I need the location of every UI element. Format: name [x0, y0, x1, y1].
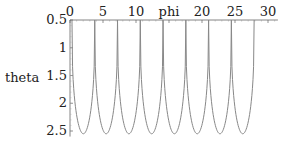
- x-tick-label: 30: [260, 4, 277, 19]
- y-tick-label: 2.5: [46, 123, 67, 138]
- x-tick-label: 20: [194, 4, 211, 19]
- y-tick-label: 0.5: [46, 12, 67, 27]
- chart: 0510phi2025300.511.522.5 theta: [0, 0, 295, 144]
- data-curve: [72, 20, 254, 134]
- y-tick-label: 1.5: [46, 68, 67, 83]
- y-tick-label: 1: [59, 40, 67, 55]
- x-tick-label: 25: [227, 4, 244, 19]
- x-tick-label: phi: [159, 4, 180, 19]
- x-tick-label: 10: [128, 4, 145, 19]
- x-tick-label: 5: [99, 4, 107, 19]
- y-tick-label: 2: [59, 95, 67, 110]
- x-tick-label: 0: [66, 4, 74, 19]
- y-axis-label: theta: [5, 70, 40, 85]
